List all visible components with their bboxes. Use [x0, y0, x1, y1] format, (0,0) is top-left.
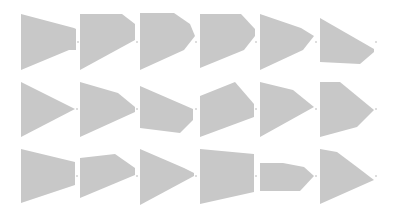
polygon-fill	[21, 149, 75, 203]
marker-dot	[195, 175, 197, 177]
pentagon-shape-r1-c5	[260, 14, 317, 70]
pentagon-shape-r1-c1	[21, 14, 79, 70]
marker-dot	[195, 108, 197, 110]
pentagon-shape-r1-c3	[140, 13, 197, 70]
marker-dot	[136, 108, 138, 110]
polygon-fill	[260, 163, 314, 191]
marker-dot	[77, 41, 79, 43]
pentagon-shape-r1-c2	[80, 14, 138, 70]
marker-dot	[255, 175, 257, 177]
marker-dot	[375, 108, 377, 110]
pentagon-shape-r1-c4	[200, 14, 257, 68]
pentagon-shape-r3-c6	[320, 149, 377, 204]
shape-grid-canvas	[0, 0, 394, 216]
pentagon-shape-r2-c3	[140, 86, 197, 133]
polygon-fill	[260, 14, 314, 70]
polygon-fill	[320, 82, 374, 137]
pentagon-shape-r3-c2	[80, 154, 138, 198]
marker-dot	[375, 175, 377, 177]
marker-dot	[136, 41, 138, 43]
polygon-fill	[21, 14, 76, 70]
pentagon-shape-r1-c6	[320, 18, 377, 64]
polygon-grid	[0, 0, 394, 216]
marker-dot	[315, 108, 317, 110]
polygon-fill	[140, 86, 193, 133]
pentagon-shape-r3-c4	[200, 149, 257, 204]
polygon-fill	[140, 149, 194, 205]
marker-dot	[315, 41, 317, 43]
polygon-fill	[80, 14, 135, 70]
polygon-fill	[320, 149, 374, 204]
marker-dot	[255, 108, 257, 110]
polygon-fill	[200, 82, 254, 137]
pentagon-shape-r2-c6	[320, 82, 377, 137]
marker-dot	[195, 41, 197, 43]
polygon-fill	[140, 13, 195, 70]
polygon-fill	[320, 18, 374, 64]
polygon-fill	[260, 82, 314, 137]
polygon-fill	[21, 82, 75, 137]
marker-dot	[375, 41, 377, 43]
marker-dot	[76, 108, 78, 110]
pentagon-shape-r3-c1	[21, 149, 78, 203]
marker-dot	[136, 175, 138, 177]
pentagon-shape-r3-c3	[140, 149, 197, 205]
pentagon-shape-r2-c2	[80, 82, 138, 137]
marker-dot	[255, 41, 257, 43]
polygon-fill	[200, 14, 255, 68]
polygon-fill	[80, 82, 135, 137]
marker-dot	[76, 175, 78, 177]
polygon-fill	[80, 154, 135, 198]
pentagon-shape-r2-c5	[260, 82, 317, 137]
pentagon-shape-r3-c5	[260, 163, 317, 191]
pentagon-shape-r2-c1	[21, 82, 78, 137]
pentagon-shape-r2-c4	[200, 82, 257, 137]
marker-dot	[315, 175, 317, 177]
polygon-fill	[200, 149, 254, 204]
